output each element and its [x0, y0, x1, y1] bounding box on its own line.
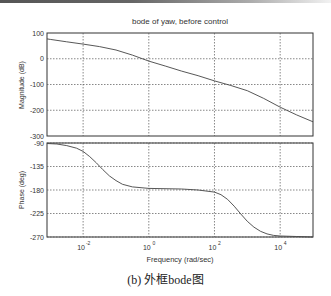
y-tick-label: -180	[30, 187, 44, 194]
x-tick-label: 10	[143, 244, 151, 251]
x-tick-label: 10	[77, 244, 85, 251]
y-tick-label: -135	[30, 163, 44, 170]
chart-title: bode of yaw, before control	[132, 17, 228, 26]
figure-caption: (b) 外框bode图	[0, 270, 331, 288]
y-tick-label: 0	[40, 55, 44, 62]
y-tick-label: -100	[30, 81, 44, 88]
magnitude-plot: 1000-100-200-300	[30, 30, 313, 140]
y-tick-label: -200	[30, 107, 44, 114]
y-tick-label: -300	[30, 133, 44, 140]
magnitude-ylabel: Magnitude (dB)	[18, 61, 26, 109]
x-axis-label: Frequency (rad/sec)	[146, 255, 214, 264]
x-tick-exponent: 0	[152, 240, 155, 246]
y-tick-label: 100	[32, 30, 44, 37]
phase-plot: -90-135-180-225-27010-2100102104	[30, 140, 313, 252]
y-tick-label: -225	[30, 210, 44, 217]
phase-ylabel: Phase (deg)	[18, 171, 26, 209]
x-tick-exponent: 4	[284, 240, 287, 246]
bode-figure: bode of yaw, before control 1000-100-200…	[0, 0, 331, 296]
y-tick-label: -270	[30, 234, 44, 241]
x-tick-exponent: -2	[86, 240, 91, 246]
x-tick-label: 10	[209, 244, 217, 251]
y-tick-label: -90	[34, 140, 44, 147]
x-tick-label: 10	[274, 244, 282, 251]
x-tick-exponent: 2	[218, 240, 221, 246]
